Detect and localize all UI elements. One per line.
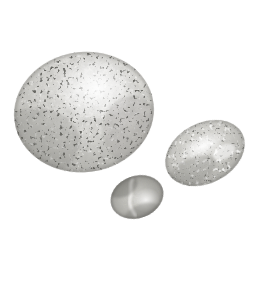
photo-canvas: Three gray speckled eggs of decreasing s… bbox=[0, 0, 260, 290]
eggs-photograph bbox=[0, 0, 260, 290]
